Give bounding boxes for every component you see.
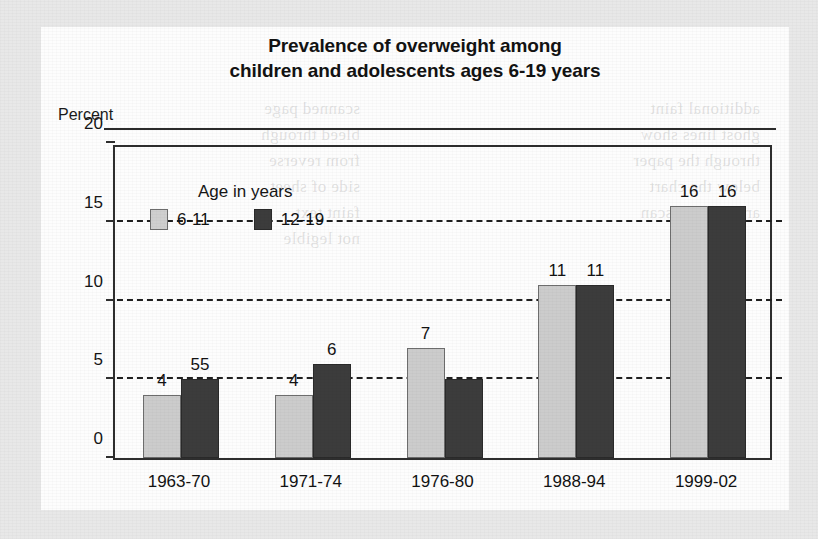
bar-value-label-1988-94-12-19: 11 [586,261,604,281]
bar-chart: 0510152045546711111616 1963-701971-74197… [0,0,818,539]
x-axis-label-1988-94: 1988-94 [543,472,605,492]
legend-item-12-19: 12-19 [254,209,324,230]
x-axis-label-1963-70: 1963-70 [148,472,210,492]
legend-swatch-6-11-icon [150,209,168,230]
y-tick-mark-5 [106,377,115,379]
bar-value-label-1999-02-6-11: 16 [680,182,699,202]
bar-1971-74-6-11: 4 [275,395,313,458]
x-axis-label-1971-74: 1971-74 [279,472,341,492]
legend-label-12-19: 12-19 [281,210,324,230]
bar-1963-70-12-19: 55 [181,379,219,458]
bar-1976-80-12-19 [445,379,483,458]
bar-value-label-1976-80-6-11: 7 [421,324,430,344]
chart-legend: Age in years 6-11 12-19 [150,182,324,230]
legend-swatch-12-19-icon [254,209,272,230]
y-tick-label-0: 0 [94,429,103,449]
bar-1963-70-6-11: 4 [143,395,181,458]
y-tick-label-20: 20 [84,114,103,134]
bar-value-label-1971-74-12-19: 6 [327,340,336,360]
bar-value-label-1963-70-6-11: 4 [157,371,166,391]
legend-items: 6-11 12-19 [150,209,324,230]
x-axis-label-1976-80: 1976-80 [411,472,473,492]
scanned-page: scanned page bleed through from reverse … [0,0,818,539]
y-tick-label-15: 15 [84,193,103,213]
bar-value-label-1963-70-12-19: 55 [190,355,209,375]
y-tick-mark-10 [106,299,115,301]
bar-1999-02-6-11: 16 [670,206,708,458]
bar-1988-94-6-11: 11 [538,285,576,458]
y-tick-label-10: 10 [84,272,103,292]
y-tick-label-5: 5 [94,350,103,370]
legend-title: Age in years [198,182,324,202]
bar-value-label-1971-74-6-11: 4 [289,371,298,391]
x-axis-label-1999-02: 1999-02 [675,472,737,492]
bar-1976-80-6-11: 7 [407,348,445,458]
y-tick-mark-0 [106,456,115,458]
legend-label-6-11: 6-11 [177,210,210,230]
bar-value-label-1999-02-12-19: 16 [718,182,737,202]
y-tick-mark-15 [106,220,115,222]
y-tick-mark-20 [106,141,115,143]
bar-1999-02-12-19: 16 [708,206,746,458]
bar-value-label-1988-94-6-11: 11 [548,261,566,281]
legend-item-6-11: 6-11 [150,209,210,230]
bar-1988-94-12-19: 11 [576,285,614,458]
bar-1971-74-12-19: 6 [313,364,351,459]
